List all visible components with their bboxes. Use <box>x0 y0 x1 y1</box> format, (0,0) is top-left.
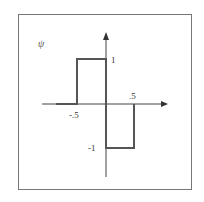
x-tick-neg-half: -.5 <box>69 110 79 120</box>
x-tick-pos-half: .5 <box>129 91 136 101</box>
function-label: ψ <box>38 38 45 49</box>
y-axis-arrow-icon <box>103 32 109 40</box>
x-axis-arrow-icon <box>161 101 168 107</box>
haar-wavelet-figure: ψ 1 -1 -.5 .5 <box>0 0 204 202</box>
y-tick-1: 1 <box>111 55 116 65</box>
y-tick-neg1: -1 <box>88 143 96 153</box>
